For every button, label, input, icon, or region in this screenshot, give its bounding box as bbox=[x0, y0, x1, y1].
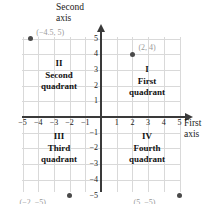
point-coordinate-label: (−2, −5) bbox=[20, 198, 46, 205]
quadrant-label-fourth: IV Fourth quadrant bbox=[110, 131, 184, 166]
x-tick-label: −5 bbox=[16, 118, 30, 127]
grid-line-vertical bbox=[132, 37, 133, 192]
x-tick-label: −3 bbox=[47, 118, 61, 127]
x-tick-label: −1 bbox=[78, 118, 92, 127]
point-coordinate-label: (2, 4) bbox=[138, 43, 155, 52]
y-axis-arrow-icon bbox=[97, 24, 105, 32]
point-coordinate-label: (−4.5, 5) bbox=[36, 28, 64, 37]
x-tick-label: −4 bbox=[31, 118, 45, 127]
coordinate-plane-diagram: Second axis First axis −5−4−3−2−11234554… bbox=[0, 0, 215, 204]
plotted-point bbox=[28, 36, 33, 41]
y-tick-label: 5 bbox=[86, 34, 98, 43]
x-tick-label: 4 bbox=[157, 118, 171, 127]
x-tick-label: 2 bbox=[125, 118, 139, 127]
x-tick-label: 1 bbox=[110, 118, 124, 127]
quadrant-label-third: III Third quadrant bbox=[22, 131, 96, 166]
x-tick-label: −2 bbox=[63, 118, 77, 127]
quadrant-label-first: I First quadrant bbox=[110, 64, 184, 99]
grid-line-vertical bbox=[180, 37, 181, 192]
y-tick-label: −4 bbox=[86, 175, 98, 184]
grid-line-vertical bbox=[164, 37, 165, 192]
plotted-point bbox=[67, 193, 72, 198]
grid-line-vertical bbox=[148, 37, 149, 192]
x-tick-label: 3 bbox=[141, 118, 155, 127]
y-tick-label: 1 bbox=[86, 96, 98, 105]
x-tick-label: 5 bbox=[173, 118, 187, 127]
y-tick-label: 4 bbox=[86, 49, 98, 58]
quadrant-label-second: II Second quadrant bbox=[22, 58, 96, 93]
x-axis-title: First axis bbox=[184, 118, 201, 140]
plotted-point bbox=[130, 52, 135, 57]
plotted-point bbox=[177, 193, 182, 198]
grid-line-vertical bbox=[117, 37, 118, 192]
y-tick-label: −5 bbox=[86, 191, 98, 200]
y-axis-title: Second axis bbox=[56, 2, 84, 24]
y-axis-line bbox=[100, 28, 102, 192]
point-coordinate-label: (5, −5) bbox=[134, 198, 156, 205]
